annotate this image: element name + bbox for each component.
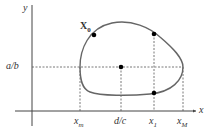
xM-tick-label: xM	[177, 116, 187, 129]
x1-tick-label: x1	[149, 116, 157, 129]
start-point-x0	[92, 33, 97, 38]
x0-label: X0	[80, 21, 91, 34]
y-axis-label: y	[23, 3, 27, 13]
x-axis-label: x	[199, 105, 203, 115]
xm-tick-label: xm	[74, 116, 84, 129]
center-point	[119, 65, 124, 70]
bottom-point	[152, 91, 157, 96]
orbit-curve	[80, 22, 183, 95]
top-point	[152, 32, 157, 37]
ab-label: a/b	[6, 61, 19, 71]
dc-tick-label: d/c	[114, 116, 126, 126]
x-axis-arrow-icon	[193, 110, 196, 113]
